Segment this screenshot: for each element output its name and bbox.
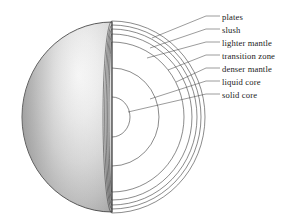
label-slush: slush [222, 25, 241, 35]
leader-line-slush [150, 29, 220, 48]
label-lighter-mantle: lighter mantle [222, 38, 272, 48]
layer-arc-solid-core [112, 97, 130, 137]
sphere-rim-shadow [22, 22, 112, 212]
sphere-body [22, 22, 112, 212]
label-plates: plates [222, 12, 243, 22]
figure-page: plates slush lighter mantle transition z… [0, 0, 294, 224]
layer-arc-liquid-core [112, 68, 159, 166]
label-liquid-core: liquid core [222, 77, 261, 87]
layer-arc-denser-mantle [112, 42, 184, 192]
leader-line-solid-core [128, 94, 220, 112]
layer-arc-transition-zone [112, 34, 192, 200]
label-transition-zone: transition zone [222, 51, 275, 61]
layer-labels: plates slush lighter mantle transition z… [222, 12, 275, 100]
label-solid-core: solid core [222, 90, 257, 100]
label-denser-mantle: denser mantle [222, 64, 272, 74]
planet-cutaway-diagram: plates slush lighter mantle transition z… [0, 0, 294, 224]
leader-line-plates [152, 16, 220, 38]
layer-arc-slush [112, 25, 201, 209]
interior-layer-arcs [112, 21, 205, 213]
